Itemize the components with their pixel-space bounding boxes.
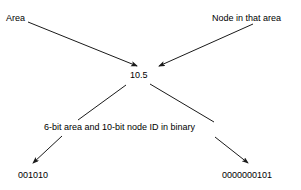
- label-binary-node: 0000000101: [222, 170, 272, 181]
- label-bit-explanation: 6-bit area and 10-bit node ID in binary: [44, 122, 195, 133]
- connector-center-to-explanation-right: [150, 84, 214, 122]
- connector-center-to-explanation-left: [78, 85, 126, 120]
- connector-layer: [0, 0, 301, 190]
- connector-node-to-center: [159, 24, 253, 66]
- connector-explanation-to-binary-node: [215, 137, 248, 163]
- label-node-in-that-area: Node in that area: [212, 13, 281, 24]
- label-center-value: 10.5: [130, 70, 148, 81]
- connector-area-to-center: [28, 22, 137, 66]
- label-binary-area: 001010: [18, 170, 48, 181]
- diagram-canvas: Area Node in that area 10.5 6-bit area a…: [0, 0, 301, 190]
- label-area: Area: [6, 13, 25, 24]
- connector-explanation-to-binary-area: [33, 136, 62, 163]
